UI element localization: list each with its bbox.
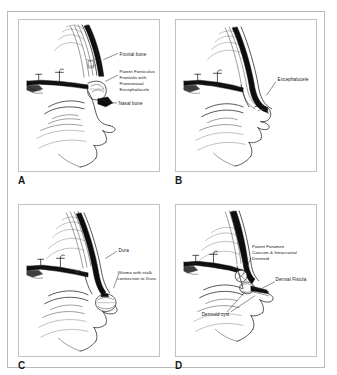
- label-patent-foramen-line1: Patent Foramen: [252, 244, 285, 249]
- panel-a: Frontal bone Patent Fonticulus Frontalis…: [18, 19, 160, 172]
- label-dura: Dura: [119, 248, 130, 253]
- label-dermal-fistula: Dermal Fistula: [276, 277, 307, 282]
- label-patent-fonticulus-line1: Patent Fonticulus: [120, 69, 155, 74]
- panel-letter-b: B: [175, 175, 182, 186]
- label-encephalocele: Encephalocele: [278, 77, 310, 82]
- panel-letter-a: A: [18, 175, 25, 186]
- label-patent-fonticulus-line3: Frontonasal: [120, 81, 144, 86]
- label-patent-foramen-line2: Caecum & Intracranial: [252, 250, 297, 255]
- label-dermoid-cyst: Dermoid cyst: [202, 312, 230, 317]
- panel-letter-c: C: [18, 360, 25, 371]
- label-nasal-bone: Nasal bone: [119, 101, 143, 106]
- panel-b: Encephalocele: [175, 19, 317, 172]
- label-frontal-bone: Frontal bone: [120, 52, 147, 57]
- label-patent-fonticulus-line4: Encephalocele: [120, 87, 150, 92]
- label-glioma-line1: Glioma with stalk: [118, 270, 153, 275]
- label-glioma-line2: connection to Dura: [118, 276, 157, 281]
- panel-c: Dura Glioma with stalk connection to Dur…: [18, 204, 160, 357]
- panel-letter-d: D: [175, 360, 182, 371]
- label-patent-foramen-line3: Dermoid: [252, 256, 270, 261]
- figure-root: Frontal bone Patent Fonticulus Frontalis…: [0, 0, 337, 375]
- panel-d: Patent Foramen Caecum & Intracranial Der…: [175, 204, 317, 357]
- label-patent-fonticulus-line2: Frontalis with: [120, 75, 147, 80]
